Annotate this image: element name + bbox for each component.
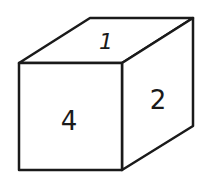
front-face-label: 4 — [61, 106, 78, 136]
top-face-label: 1 — [99, 29, 113, 54]
cube-diagram: 1 4 2 — [0, 0, 205, 179]
right-face-label: 2 — [150, 85, 167, 115]
